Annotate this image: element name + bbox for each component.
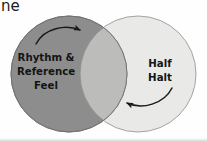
- venn-diagram-svg: Rhythm & Reference Feel Half Halt: [0, 0, 207, 142]
- venn-label-left-line-3: Feel: [34, 80, 58, 91]
- venn-label-right-line-2: Halt: [148, 72, 172, 83]
- venn-label-left-line-2: Reference: [17, 66, 75, 77]
- venn-label-left-line-1: Rhythm &: [18, 52, 75, 63]
- venn-label-right-line-1: Half: [148, 58, 172, 69]
- page-bottom-edge-shadow: [0, 138, 207, 142]
- venn-diagram-figure: ne: [0, 0, 207, 142]
